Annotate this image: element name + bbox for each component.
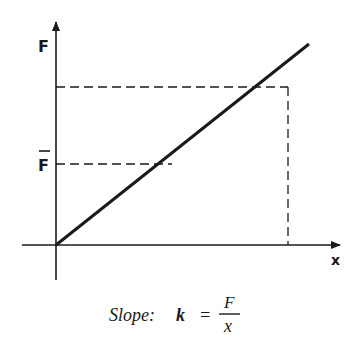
caption-denominator: x (223, 316, 232, 336)
caption-prefix: Slope: (109, 305, 155, 325)
x-axis-label: x (331, 252, 340, 268)
caption-numerator: F (223, 293, 235, 312)
mean-force-label: F (38, 156, 49, 175)
caption-variable: k (176, 305, 185, 325)
caption-equals: = (199, 305, 211, 325)
y-axis-label: F (38, 37, 49, 56)
force-displacement-diagram: F x F Slope: k = F x (0, 0, 362, 350)
force-displacement-line (56, 44, 309, 245)
